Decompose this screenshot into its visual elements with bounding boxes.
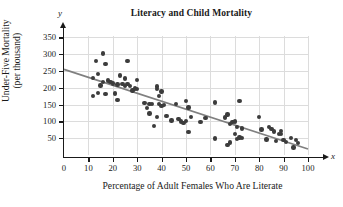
chart-figure: Literacy and Child Mortality y x 5010015…: [0, 0, 343, 207]
x-tick-mark: [186, 157, 187, 162]
data-point: [233, 119, 237, 123]
data-point: [240, 126, 244, 130]
x-tick-mark: [88, 157, 89, 162]
x-tick-mark: [113, 157, 114, 162]
data-point: [189, 115, 193, 119]
x-tick-mark: [284, 157, 285, 162]
x-tick-label: 20: [101, 163, 125, 173]
data-point: [115, 82, 119, 86]
x-axis-line: [64, 157, 324, 158]
data-point: [291, 145, 295, 149]
y-axis-label-line2: (per thousand): [12, 0, 23, 136]
x-tick-label: 90: [272, 163, 296, 173]
data-point: [123, 76, 127, 80]
data-point: [94, 59, 98, 63]
data-point: [228, 140, 232, 144]
data-point: [103, 92, 107, 96]
data-point: [264, 137, 268, 141]
data-point: [259, 127, 263, 131]
x-tick-label: 40: [150, 163, 174, 173]
data-point: [142, 101, 146, 105]
data-point: [272, 129, 276, 133]
x-tick-label: 10: [76, 163, 100, 173]
x-tick-mark: [235, 157, 236, 162]
data-point: [198, 120, 202, 124]
y-axis-symbol: y: [58, 8, 62, 18]
x-tick-mark: [137, 157, 138, 162]
x-tick-mark: [308, 157, 309, 162]
y-tick-label: 150: [26, 100, 56, 110]
y-tick-label: 100: [26, 116, 56, 126]
x-tick-label: 0: [52, 163, 76, 173]
x-tick-mark: [210, 157, 211, 162]
data-point: [169, 118, 173, 122]
plot-area: [64, 36, 308, 156]
y-axis-label: Under-Five Mortality (per thousand): [1, 0, 22, 136]
data-point: [237, 99, 241, 103]
x-axis-symbol: x: [331, 151, 335, 161]
data-point: [186, 105, 190, 109]
data-point: [118, 73, 122, 77]
data-point: [225, 112, 229, 116]
gridline-vertical: [308, 36, 309, 155]
y-tick-label: 50: [26, 133, 56, 143]
x-tick-mark: [259, 157, 260, 162]
data-point: [164, 114, 168, 118]
x-tick-label: 70: [223, 163, 247, 173]
x-tick-mark: [162, 157, 163, 162]
x-tick-label: 50: [174, 163, 198, 173]
chart-title: Literacy and Child Mortality: [0, 8, 343, 18]
y-tick-label: 250: [26, 66, 56, 76]
x-tick-label: 60: [198, 163, 222, 173]
x-tick-label: 100: [296, 163, 320, 173]
y-tick-label: 350: [26, 32, 56, 42]
data-point: [186, 130, 190, 134]
x-axis-label: Percentage of Adult Females Who Are Lite…: [0, 180, 343, 191]
data-point: [155, 87, 159, 91]
x-axis-arrow-icon: [323, 154, 329, 160]
x-tick-label: 80: [247, 163, 271, 173]
data-point: [203, 116, 207, 120]
y-tick-label: 300: [26, 49, 56, 59]
data-point: [159, 89, 163, 93]
data-point: [111, 81, 115, 85]
x-tick-label: 30: [125, 163, 149, 173]
y-tick-label: 200: [26, 83, 56, 93]
data-point: [147, 111, 151, 115]
data-point: [101, 51, 105, 55]
